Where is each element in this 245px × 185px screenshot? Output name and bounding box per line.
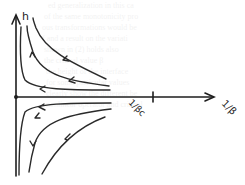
critical-value-label: 1/βc — [127, 97, 148, 118]
h-axis-label: h — [22, 10, 29, 23]
phase-portrait-diagram: h 1/β 1/βc — [0, 0, 245, 185]
trajectory-lower-middle — [29, 109, 111, 172]
trajectory-upper-inner — [20, 27, 110, 92]
trajectory-upper-outer — [33, 18, 106, 79]
trajectory-lower-outer — [42, 117, 105, 174]
inverse-beta-axis-label: 1/β — [220, 98, 239, 117]
inverse-beta-axis — [16, 92, 214, 102]
origin-dot — [14, 95, 18, 99]
